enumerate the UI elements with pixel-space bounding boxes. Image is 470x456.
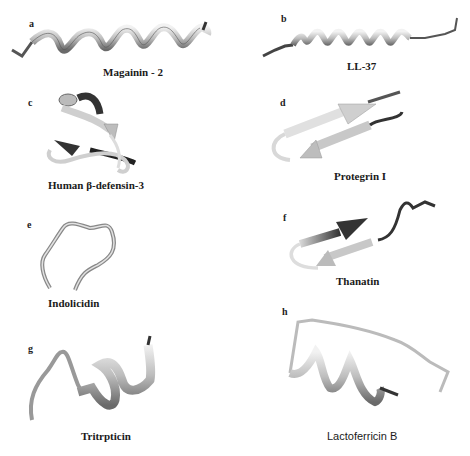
caption-human-beta-defensin-3: Human β-defensin-3 (48, 179, 144, 191)
peptide-ribbon-drawings (0, 0, 470, 456)
indolicidin-structure (42, 223, 114, 290)
protegrin-i-structure (274, 92, 402, 160)
peptide-structures-figure: a b c d e f g h Magainin - 2 LL-37 Human… (0, 0, 470, 456)
panel-letter-d: d (280, 97, 286, 108)
magainin-2-structure (12, 22, 207, 56)
thanatin-structure (291, 202, 435, 268)
tritrpticin-structure (31, 336, 151, 420)
caption-magainin-2: Magainin - 2 (103, 66, 163, 78)
caption-tritrpticin: Tritrpticin (81, 430, 131, 442)
caption-protegrin-i: Protegrin I (334, 170, 386, 182)
panel-letter-c: c (28, 97, 32, 108)
panel-letter-e: e (27, 219, 31, 230)
caption-lactoferricin-b: Lactoferricin B (327, 430, 397, 442)
caption-thanatin: Thanatin (336, 275, 379, 287)
panel-letter-g: g (28, 343, 33, 354)
ll-37-structure (263, 18, 457, 56)
lactoferricin-b-structure (290, 320, 448, 402)
caption-indolicidin: Indolicidin (48, 297, 99, 309)
panel-letter-h: h (282, 306, 288, 317)
human-beta-defensin-3-structure (49, 94, 135, 172)
caption-ll-37: LL-37 (347, 60, 376, 72)
panel-letter-f: f (283, 212, 286, 223)
panel-letter-b: b (281, 13, 287, 24)
panel-letter-a: a (29, 18, 34, 29)
